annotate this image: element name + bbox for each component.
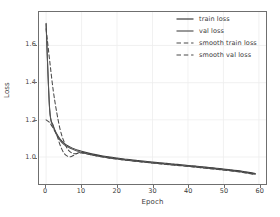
chart-legend: train lossval losssmooth train losssmoot… xyxy=(176,13,270,61)
x-axis-label: Epoch xyxy=(38,198,267,206)
x-tick-label: 20 xyxy=(107,188,127,195)
x-tick-label: 0 xyxy=(35,188,55,195)
x-tick-label: 60 xyxy=(250,188,270,195)
x-tick-mark xyxy=(260,185,261,188)
x-tick-mark xyxy=(45,185,46,188)
legend-entry[interactable]: val loss xyxy=(176,25,270,37)
legend-line-icon xyxy=(176,27,194,35)
x-tick-label: 50 xyxy=(214,188,234,195)
x-tick-label: 40 xyxy=(178,188,198,195)
legend-line-icon xyxy=(176,51,194,59)
legend-label: val loss xyxy=(199,27,224,35)
y-axis-label: Loss xyxy=(3,70,11,110)
legend-label: train loss xyxy=(199,15,230,23)
x-tick-mark xyxy=(117,185,118,188)
legend-label: smooth train loss xyxy=(199,39,257,47)
legend-label: smooth val loss xyxy=(199,51,251,59)
legend-line-icon xyxy=(176,39,194,47)
legend-line-icon xyxy=(176,15,194,23)
legend-entry[interactable]: train loss xyxy=(176,13,270,25)
x-tick-label: 10 xyxy=(71,188,91,195)
x-tick-mark xyxy=(188,185,189,188)
x-tick-label: 30 xyxy=(143,188,163,195)
loss-curve-figure: 1.01.21.41.6 0102030405060 Epoch Loss tr… xyxy=(0,0,280,217)
x-tick-mark xyxy=(224,185,225,188)
legend-entry[interactable]: smooth train loss xyxy=(176,37,270,49)
x-tick-mark xyxy=(153,185,154,188)
legend-entry[interactable]: smooth val loss xyxy=(176,49,270,61)
x-tick-mark xyxy=(81,185,82,188)
